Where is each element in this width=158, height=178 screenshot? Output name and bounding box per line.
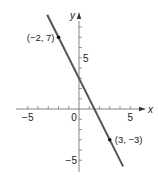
point-label: (3, −3) <box>115 134 143 145</box>
x-axis-arrow-icon <box>139 107 146 111</box>
y-axis-arrow-icon <box>77 12 81 19</box>
tick-labels: −5055−5 <box>22 53 133 167</box>
line-graph: xy −5055−5 (−2, 7)(3, −3) <box>0 0 158 178</box>
x-tick-label: 5 <box>127 112 133 123</box>
x-tick-label: 0 <box>71 112 77 123</box>
y-tick-label: 5 <box>83 53 89 64</box>
y-tick-label: −5 <box>66 155 78 166</box>
y-axis-label: y <box>69 10 76 21</box>
point-label: (−2, 7) <box>27 32 55 43</box>
x-tick-label: −5 <box>22 112 34 123</box>
data-point <box>57 35 61 39</box>
data-point <box>108 138 112 142</box>
x-axis-label: x <box>147 104 154 115</box>
